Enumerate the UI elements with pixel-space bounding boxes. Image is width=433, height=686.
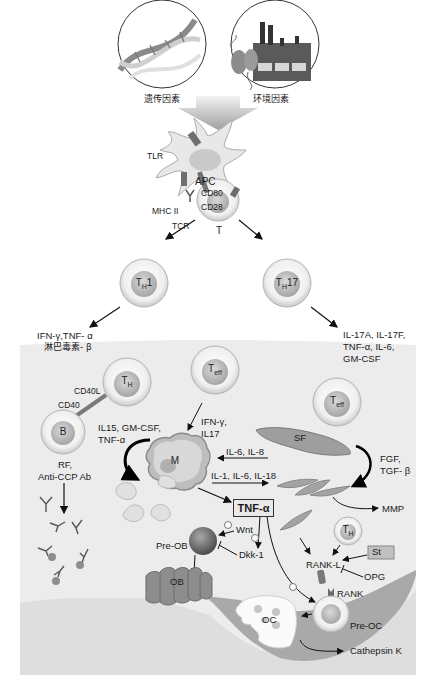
th1-cytokines-line2: 淋巴毒素- β <box>44 342 92 353</box>
ob-label: OB <box>170 576 184 587</box>
convergence-arrow <box>178 96 258 130</box>
il1-il6-il18-label: IL-1, IL-6, IL-18 <box>211 470 276 481</box>
cd40-label: CD40 <box>58 400 80 411</box>
teff-left-label: Teff <box>200 363 230 376</box>
cd80-label: CD80 <box>201 188 223 199</box>
m-input-line1: IL15, GM-CSF, <box>98 422 161 433</box>
il6-il8-label: IL-6, IL-8 <box>226 446 264 457</box>
b-output-line1: RF, <box>55 459 75 470</box>
wnt-label: Wnt <box>236 524 253 535</box>
th17-cytokines-line2: TNF-α, IL-6, <box>343 341 394 352</box>
arrow-t-to-th17 <box>239 220 262 239</box>
th1-label: TH1 <box>128 277 160 290</box>
pre-oc-label: Pre-OC <box>350 620 382 631</box>
apc-label: APC <box>195 176 216 187</box>
dkk-label: Dkk-1 <box>239 549 264 560</box>
opg-label: OPG <box>364 571 385 582</box>
rankl-label: RANK-L <box>306 559 341 570</box>
pre-ob-label: Pre-OB <box>156 540 188 551</box>
tcr-receptor-icon <box>186 190 194 202</box>
cathepsin-label: Cathepsin K <box>350 645 402 656</box>
mhc-receptor-icon <box>181 172 187 186</box>
genetic-factor-circle <box>118 0 206 88</box>
macrophage-label: M <box>168 455 182 466</box>
fgf-label: FGF, <box>380 453 401 464</box>
mmp-label: MMP <box>382 503 404 514</box>
st-label: St <box>372 546 381 557</box>
th-small-label: TH <box>338 524 358 537</box>
b-cell-label: B <box>56 426 70 437</box>
sf-label: SF <box>294 432 306 443</box>
arrow-th17-to-cytokines <box>311 307 337 327</box>
teff-right-label: Teff <box>322 395 352 408</box>
t-cell-label: T <box>212 225 226 236</box>
arrow-th1-to-cytokines <box>90 307 120 327</box>
oc-label: OC <box>262 614 276 625</box>
th1-cytokines-line1: IFN-γ,TNF- α <box>37 330 93 341</box>
th17-cytokines-line1: IL-17A, IL-17F, <box>343 329 405 340</box>
teff-output-line2: IL17 <box>201 428 220 439</box>
tlr-label: TLR <box>147 151 163 162</box>
cd28-label: CD28 <box>201 202 223 213</box>
th17-label: TH17 <box>270 277 304 290</box>
environmental-factor-circle <box>231 0 319 90</box>
environmental-factor-label: 环境因素 <box>253 94 289 105</box>
tcr-label: TCR <box>172 221 189 232</box>
mhc-label: MHC II <box>152 206 178 217</box>
teff-output-line1: IFN-γ, <box>201 416 227 427</box>
pre-oc-cell <box>313 596 349 632</box>
m-input-line2: TNF-α <box>98 434 125 445</box>
pre-ob-cell <box>189 527 217 555</box>
th17-cytokines-line3: GM-CSF <box>343 353 380 364</box>
cd40l-label: CD40L <box>74 386 100 397</box>
rank-label: RANK <box>337 588 363 599</box>
diagram-canvas: 遗传因素 环境因素 TLR APC CD80 CD28 MHC II TCR T… <box>0 0 433 686</box>
tgf-label: TGF- β <box>380 465 410 476</box>
genetic-factor-label: 遗传因素 <box>144 94 180 105</box>
b-output-line2: Anti-CCP Ab <box>38 471 91 482</box>
tnf-alpha-box: TNF-α <box>233 499 274 517</box>
th-cell-left-label: TH <box>115 375 139 388</box>
